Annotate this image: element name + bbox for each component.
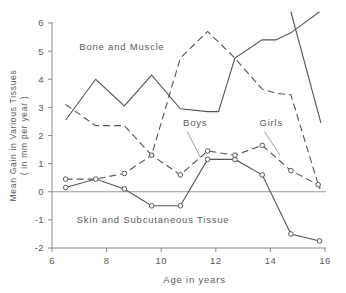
data-point-marker <box>122 171 127 176</box>
chart-figure: -2-10123456 6810121416 Bone and MuscleSk… <box>0 0 346 293</box>
chart-annotation: Skin and Subcutaneous Tissue <box>77 214 230 225</box>
y-axis-tick-labels: -2-10123456 <box>35 17 44 253</box>
x-tick-label: 6 <box>49 255 55 266</box>
y-tick-label: 3 <box>38 102 44 113</box>
data-point-markers <box>63 143 321 243</box>
data-point-marker <box>205 149 210 154</box>
data-point-marker <box>178 204 183 209</box>
y-axis-ticks <box>48 23 52 248</box>
leader-line <box>264 131 280 155</box>
data-point-marker <box>233 153 238 158</box>
data-point-marker <box>260 173 265 178</box>
x-axis-title: Age in years <box>163 274 225 285</box>
inline-annotations: Bone and MuscleSkin and Subcutaneous Tis… <box>77 41 283 225</box>
x-tick-label: 16 <box>319 255 330 266</box>
data-point-marker <box>178 173 183 178</box>
leader-line <box>187 131 201 158</box>
growth-gain-line-chart: -2-10123456 6810121416 Bone and MuscleSk… <box>0 0 346 293</box>
chart-annotation: Bone and Muscle <box>79 41 164 52</box>
x-tick-label: 12 <box>210 255 221 266</box>
x-tick-label: 8 <box>104 255 110 266</box>
data-point-marker <box>289 168 294 173</box>
x-axis-tick-labels: 6810121416 <box>49 255 331 266</box>
data-point-marker <box>260 143 265 148</box>
data-point-marker <box>93 177 98 182</box>
y-tick-label: 0 <box>38 186 44 197</box>
data-point-marker <box>149 153 154 158</box>
y-tick-label: -1 <box>35 214 44 225</box>
series-line <box>291 12 321 123</box>
x-tick-label: 14 <box>265 255 276 266</box>
y-tick-label: -2 <box>35 242 44 253</box>
y-tick-label: 2 <box>38 130 44 141</box>
chart-annotation: Boys <box>183 117 207 128</box>
data-point-marker <box>289 232 294 237</box>
data-point-marker <box>149 204 154 209</box>
data-point-marker <box>63 177 68 182</box>
y-tick-label: 1 <box>38 158 44 169</box>
x-axis-ticks <box>52 248 325 252</box>
y-tick-label: 6 <box>38 17 44 28</box>
x-tick-label: 10 <box>156 255 167 266</box>
data-point-marker <box>63 185 68 190</box>
y-axis-title-group: Mean Gain in Various Tissues ( in mm per… <box>8 70 29 202</box>
chart-annotation: Girls <box>259 117 283 128</box>
data-point-marker <box>205 157 210 162</box>
y-axis-title-line1: Mean Gain in Various Tissues <box>8 70 18 202</box>
data-point-marker <box>317 239 322 244</box>
data-point-marker <box>316 182 321 187</box>
series-line <box>66 12 320 120</box>
series-line <box>66 159 320 241</box>
y-tick-label: 4 <box>38 74 44 85</box>
y-axis-title-line2: ( in mm per year ) <box>19 96 29 176</box>
y-tick-label: 5 <box>38 46 44 57</box>
data-point-marker <box>122 187 127 192</box>
